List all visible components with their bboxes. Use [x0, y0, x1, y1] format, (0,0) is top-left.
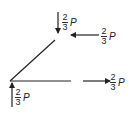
symbol: P [23, 92, 30, 103]
diagonal-member [10, 40, 55, 81]
numerator: 2 [15, 88, 20, 96]
numerator: 2 [62, 13, 67, 21]
symbol: P [109, 31, 116, 42]
symbol: P [70, 17, 77, 28]
symbol: P [118, 77, 125, 88]
denominator: 3 [101, 37, 106, 45]
top-force-label: 23 P [62, 13, 77, 31]
right-upper-force-label: 23 P [101, 27, 116, 45]
denominator: 3 [15, 98, 20, 106]
denominator: 3 [62, 23, 67, 31]
denominator: 3 [110, 83, 115, 91]
bottom-force-label: 23 P [15, 88, 30, 106]
numerator: 2 [101, 27, 106, 35]
numerator: 2 [110, 73, 115, 81]
right-lower-force-label: 23 P [110, 73, 125, 91]
